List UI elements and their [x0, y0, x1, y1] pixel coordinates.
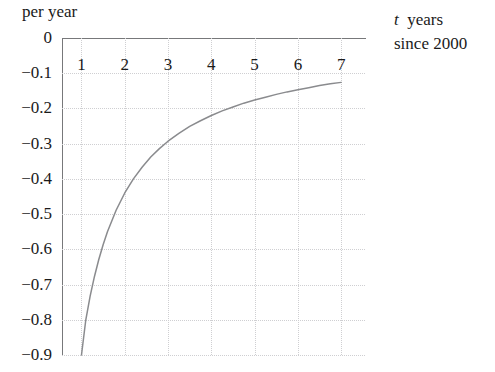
gridline-horizontal	[62, 355, 365, 356]
gridline-vertical	[211, 38, 212, 355]
gridline-horizontal	[62, 249, 365, 250]
gridline-horizontal	[62, 285, 365, 286]
gridline-vertical	[81, 38, 82, 355]
y-tick-label: −0.5	[0, 205, 52, 222]
y-tick-label: −0.8	[0, 311, 52, 328]
gridline-vertical	[341, 38, 342, 355]
y-tick-label: −0.3	[0, 135, 52, 152]
x-axis-title: t years since 2000	[394, 8, 467, 56]
x-axis-title-word: years	[407, 10, 443, 29]
x-tick-label: 4	[199, 56, 223, 73]
y-tick-label: −0.7	[0, 276, 52, 293]
x-tick-label: 1	[69, 56, 93, 73]
gridline-vertical	[168, 38, 169, 355]
gridline-vertical	[298, 38, 299, 355]
y-tick-label: 0	[0, 29, 52, 46]
gridline-horizontal	[62, 320, 365, 321]
gridline-horizontal	[62, 214, 365, 215]
chart-figure: per year t years since 2000 0−0.1−0.2−0.…	[0, 0, 495, 372]
plot-area	[62, 38, 365, 355]
y-tick-label: −0.6	[0, 240, 52, 257]
gridline-horizontal	[62, 144, 365, 145]
gridline-vertical	[125, 38, 126, 355]
x-tick-label: 5	[243, 56, 267, 73]
y-tick-label: −0.9	[0, 346, 52, 363]
x-axis-title-line2: since 2000	[394, 32, 467, 56]
x-tick-label: 3	[156, 56, 180, 73]
gridline-horizontal	[62, 179, 365, 180]
y-tick-label: −0.4	[0, 170, 52, 187]
gridline-horizontal	[62, 108, 365, 109]
y-axis-title: per year	[22, 2, 77, 21]
x-tick-label: 7	[329, 56, 353, 73]
y-tick-label: −0.2	[0, 99, 52, 116]
x-tick-label: 6	[286, 56, 310, 73]
x-tick-label: 2	[113, 56, 137, 73]
gridline-vertical	[255, 38, 256, 355]
y-tick-label: −0.1	[0, 64, 52, 81]
